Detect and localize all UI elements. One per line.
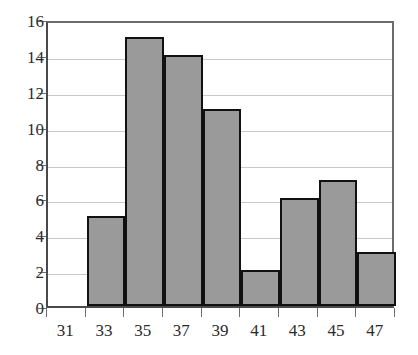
y-tick-label: 4: [10, 228, 44, 245]
x-tick-label: 33: [96, 322, 113, 339]
bar: [203, 109, 242, 306]
bar-chart: 0246810121416 313335373941434547: [0, 0, 418, 355]
bar: [164, 55, 203, 306]
y-tick-label: 16: [10, 13, 44, 30]
x-tick-label: 45: [328, 322, 345, 339]
x-tick-mark: [394, 308, 395, 317]
x-tick-label: 35: [134, 322, 151, 339]
x-tick-label: 37: [173, 322, 190, 339]
x-tick-label: 31: [57, 322, 74, 339]
x-axis: 313335373941434547: [46, 308, 396, 355]
x-tick-mark: [46, 308, 47, 317]
x-tick-mark: [201, 308, 202, 317]
bar: [357, 252, 396, 306]
x-tick-mark: [123, 308, 124, 317]
y-tick-label: 2: [10, 264, 44, 281]
x-tick-mark: [239, 308, 240, 317]
x-tick-mark: [162, 308, 163, 317]
bar: [241, 270, 280, 306]
bar: [87, 216, 126, 306]
x-tick-mark: [355, 308, 356, 317]
bars-group: [48, 23, 392, 306]
y-axis: 0246810121416: [0, 0, 44, 355]
x-tick-mark: [85, 308, 86, 317]
y-tick-label: 0: [10, 300, 44, 317]
bar: [319, 180, 358, 306]
y-tick-label: 6: [10, 192, 44, 209]
bar: [125, 37, 164, 306]
plot-area: [46, 21, 394, 308]
y-tick-label: 10: [10, 120, 44, 137]
x-tick-label: 39: [212, 322, 229, 339]
y-tick-label: 8: [10, 156, 44, 173]
bar: [280, 198, 319, 306]
x-tick-mark: [317, 308, 318, 317]
x-tick-label: 43: [289, 322, 306, 339]
x-tick-mark: [278, 308, 279, 317]
y-tick-label: 12: [10, 84, 44, 101]
x-tick-label: 41: [250, 322, 267, 339]
y-tick-label: 14: [10, 48, 44, 65]
x-tick-label: 47: [366, 322, 383, 339]
